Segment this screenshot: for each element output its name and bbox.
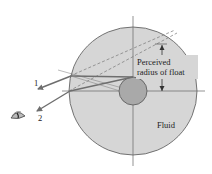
refracted-ray-2 xyxy=(37,91,70,111)
refracted-ray-1 xyxy=(38,76,71,89)
refraction-diagram: Perceived radius of float Fluid 1 2 xyxy=(0,0,212,174)
perceived-radius-label-line1: Perceived xyxy=(137,57,171,67)
float-circle xyxy=(119,77,147,105)
ray-1-label: 1 xyxy=(34,78,38,88)
perceived-radius-label-line2: radius of float xyxy=(137,67,185,77)
fluid-label: Fluid xyxy=(157,120,176,130)
ray-2-label: 2 xyxy=(38,113,42,123)
eye-icon xyxy=(11,112,25,119)
